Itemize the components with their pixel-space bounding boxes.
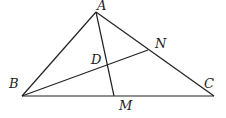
label-d: D bbox=[90, 52, 102, 67]
geometry-diagram: A B C D M N bbox=[0, 0, 226, 118]
label-b: B bbox=[8, 76, 19, 91]
label-c: C bbox=[204, 76, 214, 91]
segment-ca bbox=[96, 12, 214, 96]
label-a: A bbox=[96, 0, 106, 13]
segment-ab bbox=[22, 12, 96, 96]
label-m: M bbox=[118, 98, 133, 113]
label-n: N bbox=[154, 36, 167, 51]
segment-bn bbox=[22, 50, 148, 96]
